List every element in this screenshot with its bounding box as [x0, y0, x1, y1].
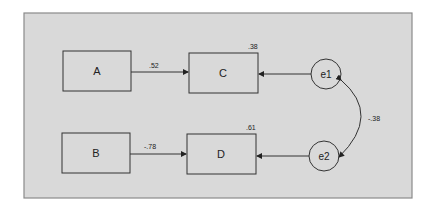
- path-diagram: A B C .38 D .61 e1 e2 .52 -.78 -.38: [0, 0, 434, 214]
- node-A[interactable]: A: [63, 51, 131, 91]
- edge-B-D-label: -.78: [144, 143, 156, 150]
- node-C-r2: .38: [248, 43, 258, 50]
- node-e1[interactable]: e1: [311, 59, 341, 89]
- node-B-label: B: [92, 147, 99, 159]
- node-e2-label: e2: [318, 151, 330, 162]
- edge-e1-e2-label: -.38: [368, 115, 380, 122]
- node-D[interactable]: D: [187, 134, 256, 174]
- node-D-r2: .61: [246, 124, 256, 131]
- edge-A-C-label: .52: [149, 62, 159, 69]
- node-C[interactable]: C: [189, 53, 258, 93]
- node-C-label: C: [219, 67, 227, 79]
- node-e2[interactable]: e2: [309, 141, 339, 171]
- node-A-label: A: [93, 65, 101, 77]
- node-e1-label: e1: [320, 69, 332, 80]
- node-B[interactable]: B: [62, 133, 130, 173]
- node-D-label: D: [217, 148, 225, 160]
